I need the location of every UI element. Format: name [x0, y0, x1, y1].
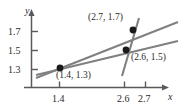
x-tick-label-2-6: 2.6 [117, 94, 130, 104]
data-point-2-6-1-5 [123, 47, 130, 54]
y-tick-label-1-5: 1.5 [8, 46, 21, 56]
x-axis-arrow-icon [162, 84, 169, 90]
x-axis-label: x [168, 92, 172, 102]
point-label-2-7-1-7: (2.7, 1.7) [88, 13, 123, 23]
point-label-2-6-1-5: (2.6, 1.5) [131, 53, 166, 63]
x-tick-label-2-7: 2.7 [138, 94, 151, 104]
data-point-2-7-1-7 [130, 27, 137, 34]
x-tick-label-1-4: 1.4 [52, 94, 65, 104]
y-tick-label-1-7: 1.7 [8, 27, 21, 37]
line-graph-figure: 1.7 1.5 1.3 1.4 2.6 2.7 y x (1.4, 1.3) (… [0, 0, 181, 112]
y-axis-label: y [25, 6, 29, 16]
y-tick-label-1-3: 1.3 [8, 65, 21, 75]
point-label-1-4-1-3: (1.4, 1.3) [56, 71, 91, 81]
